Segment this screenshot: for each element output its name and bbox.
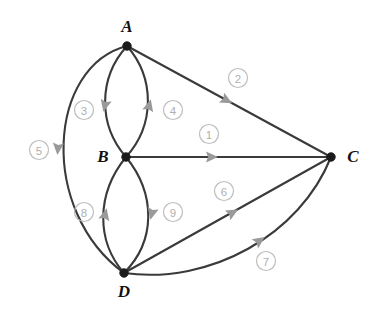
edge-label-text-2: 2 <box>235 73 241 85</box>
edge-label-text-6: 6 <box>221 186 227 198</box>
edge-direction-arrow-4 <box>142 98 156 112</box>
graph-edge-4 <box>126 46 148 157</box>
edge-label-text-4: 4 <box>170 105 177 117</box>
edge-label-6: 6 <box>215 182 234 201</box>
node-label-C: C <box>347 147 359 166</box>
edge-direction-arrow-2 <box>219 93 235 109</box>
edge-label-2: 2 <box>229 69 248 88</box>
edge-label-3: 3 <box>75 101 94 120</box>
edge-label-8: 8 <box>75 203 94 222</box>
edge-direction-arrow-8 <box>98 207 112 221</box>
graph-node-D[interactable] <box>120 269 128 277</box>
edge-label-text-9: 9 <box>170 207 176 219</box>
edge-label-7: 7 <box>257 252 276 271</box>
edge-label-text-8: 8 <box>81 207 87 219</box>
edge-direction-arrow-5 <box>52 143 64 156</box>
graph-node-C[interactable] <box>327 153 335 161</box>
graph-diagram: ABCD 123456789 <box>0 0 380 310</box>
graph-edge-6 <box>124 157 331 273</box>
edge-label-9: 9 <box>164 203 183 222</box>
node-label-A: A <box>120 17 132 36</box>
graph-edge-5 <box>64 46 127 273</box>
graph-edge-3 <box>105 46 127 157</box>
edge-label-text-7: 7 <box>263 256 269 268</box>
graph-canvas: ABCD 123456789 <box>0 0 380 310</box>
edge-label-text-5: 5 <box>36 145 42 157</box>
graph-node-A[interactable] <box>123 42 131 50</box>
edge-label-5: 5 <box>30 141 49 160</box>
graph-edge-9 <box>124 157 148 273</box>
edge-label-text-1: 1 <box>206 129 212 141</box>
graph-node-B[interactable] <box>122 153 130 161</box>
node-label-B: B <box>96 147 108 166</box>
node-label-D: D <box>117 282 130 301</box>
edge-label-4: 4 <box>164 101 183 120</box>
edge-label-text-3: 3 <box>81 105 87 117</box>
edge-label-1: 1 <box>200 125 219 144</box>
edge-labels-layer: 123456789 <box>30 69 276 271</box>
edge-direction-arrow-6 <box>225 205 241 221</box>
